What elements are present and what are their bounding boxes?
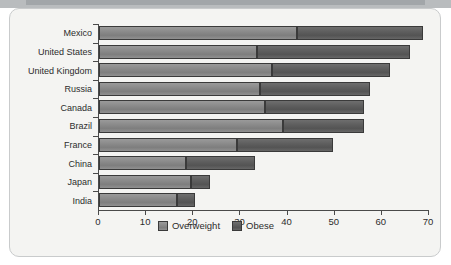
y-axis-tick [93, 191, 98, 192]
category-label-japan: Japan [67, 177, 92, 187]
chart-figure: MexicoUnited StatesUnited KingdomRussiaC… [0, 0, 451, 265]
bar-segment-overweight [99, 100, 265, 114]
bar-group [99, 154, 429, 173]
x-axis-tick [145, 210, 146, 215]
bar-segment-obese [272, 63, 390, 77]
legend-swatch-icon [232, 221, 242, 231]
bar-segment-obese [265, 100, 364, 114]
y-axis-tick [93, 24, 98, 25]
bar-segment-obese [177, 193, 195, 207]
legend-item-obese[interactable]: Obese [232, 220, 274, 231]
y-axis-tick [93, 43, 98, 44]
bar-group [99, 136, 429, 155]
category-label-mexico: Mexico [63, 28, 92, 38]
bar-segment-obese [297, 26, 423, 40]
plot-area: 010203040506070 [98, 24, 428, 210]
bar-segment-overweight [99, 119, 283, 133]
category-label-brazil: Brazil [69, 121, 92, 131]
x-axis-tick [428, 210, 429, 215]
legend-item-overweight[interactable]: Overweight [158, 220, 220, 231]
top-decorative-strip-inner [26, 0, 425, 5]
category-label-france: France [64, 140, 92, 150]
bar-segment-obese [283, 119, 364, 133]
bar-segment-obese [237, 138, 333, 152]
y-axis-tick [93, 80, 98, 81]
bar-segment-obese [260, 82, 369, 96]
y-axis-tick [93, 136, 98, 137]
bar-segment-obese [191, 175, 210, 189]
category-label-canada: Canada [60, 103, 92, 113]
bar-group [99, 80, 429, 99]
y-axis-tick [93, 61, 98, 62]
y-axis-tick [93, 98, 98, 99]
bar-segment-overweight [99, 138, 237, 152]
legend-label: Obese [246, 220, 274, 231]
chart-legend: OverweightObese [0, 220, 432, 231]
legend-swatch-icon [158, 221, 168, 231]
category-label-russia: Russia [64, 84, 92, 94]
bar-group [99, 117, 429, 136]
category-label-china: China [68, 159, 92, 169]
x-axis-tick [381, 210, 382, 215]
bar-segment-overweight [99, 26, 297, 40]
bar-group [99, 43, 429, 62]
category-label-india: India [72, 196, 92, 206]
x-axis-tick [192, 210, 193, 215]
bar-segment-overweight [99, 63, 272, 77]
bar-segment-obese [186, 156, 255, 170]
legend-label: Overweight [172, 220, 220, 231]
category-label-united-states: United States [38, 47, 92, 57]
y-axis-tick [93, 173, 98, 174]
bar-group [99, 24, 429, 43]
y-axis-tick [93, 154, 98, 155]
bar-segment-obese [257, 45, 409, 59]
x-axis-tick [98, 210, 99, 215]
x-axis-tick [287, 210, 288, 215]
y-axis-tick [93, 117, 98, 118]
x-axis-tick [239, 210, 240, 215]
bar-group [99, 191, 429, 210]
category-label-united-kingdom: United Kingdom [28, 66, 92, 76]
bar-segment-overweight [99, 193, 177, 207]
x-axis-tick [334, 210, 335, 215]
x-axis-line [98, 210, 428, 211]
bar-segment-overweight [99, 82, 260, 96]
bar-group [99, 173, 429, 192]
bar-segment-overweight [99, 175, 191, 189]
bar-group [99, 98, 429, 117]
bar-group [99, 61, 429, 80]
bar-segment-overweight [99, 156, 186, 170]
bar-segment-overweight [99, 45, 257, 59]
category-axis-labels: MexicoUnited StatesUnited KingdomRussiaC… [0, 24, 92, 210]
